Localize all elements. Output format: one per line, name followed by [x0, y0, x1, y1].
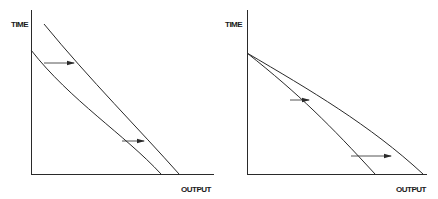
figure: TIME OUTPUT TIME OUTPUT — [0, 0, 438, 199]
right-chart: TIME OUTPUT — [225, 10, 427, 194]
left-x-axis-label: OUTPUT — [181, 185, 212, 194]
left-shifted-curve — [44, 24, 179, 174]
right-pivoted-curve — [247, 53, 423, 174]
right-y-axis-label: TIME — [225, 20, 243, 29]
right-x-axis-label: OUTPUT — [396, 185, 427, 194]
left-original-curve — [31, 50, 161, 174]
left-chart: TIME OUTPUT — [11, 10, 214, 194]
left-y-axis-label: TIME — [11, 20, 29, 29]
